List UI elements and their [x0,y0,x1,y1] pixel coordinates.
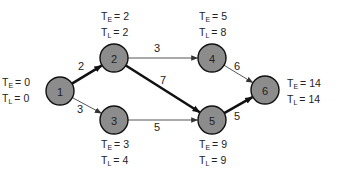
latest-time-label-node-3: TL= 4 [101,154,128,167]
node-5: 5 [198,106,226,134]
node-number-label: 4 [209,53,215,65]
edge-3-5: 5 [128,120,198,133]
latest-time-label-node-4: TL= 8 [199,26,226,39]
edge-weight-label: 2 [78,60,84,72]
edge-2-4: 3 [128,42,198,58]
earliest-time-label-node-2: TE= 2 [101,10,129,23]
node-4: 4 [198,44,226,72]
edge-1-3: 3 [72,98,101,115]
edge-weight-label: 3 [154,42,160,54]
node-number-label: 5 [209,115,215,127]
latest-time-label-node-6: TL= 14 [287,93,320,106]
edge-weight-label: 5 [154,121,160,133]
earliest-time-label-node-4: TE= 5 [199,10,227,23]
node-2: 2 [100,44,128,72]
edge-weight-label: 7 [160,74,166,86]
earliest-time-label-node-5: TE= 9 [199,138,227,151]
edge-4-6: 6 [224,60,253,83]
node-number-label: 1 [57,86,63,98]
edge-weight-label: 5 [234,110,240,122]
node-number-label: 2 [111,53,117,65]
edge-1-2: 2 [72,60,102,84]
node-number-label: 3 [111,115,117,127]
critical-edge-line [72,66,102,84]
latest-time-label-node-2: TL= 2 [101,26,128,39]
edge-2-5: 7 [126,65,200,112]
edge-5-6: 5 [224,97,252,122]
node-6: 6 [251,76,279,104]
node-number-label: 6 [262,85,268,97]
earliest-time-label-node-3: TE= 3 [101,138,129,151]
critical-path-diagram: 2337565 123456 TE= 0TL= 0TE= 2TL= 2TE= 3… [0,0,337,174]
latest-time-label-node-5: TL= 9 [199,154,226,167]
edge-weight-label: 6 [234,60,240,72]
earliest-time-label-node-1: TE= 0 [2,76,30,89]
node-1: 1 [46,77,74,105]
critical-edge-line [126,65,200,112]
node-3: 3 [100,106,128,134]
earliest-time-label-node-6: TE= 14 [287,77,321,90]
latest-time-label-node-1: TL= 0 [2,92,29,105]
edge-weight-label: 3 [77,103,83,115]
